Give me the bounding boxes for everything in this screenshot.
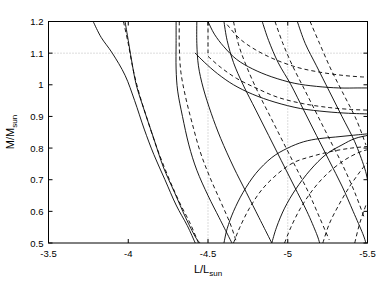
y-tick-label: 0.9 [30,111,43,122]
figure-background [0,0,388,287]
x-tick-label: -4.5 [200,248,216,259]
x-axis-title-sub: sun [209,269,222,278]
figure-container: -3.5-4-4.5-5-5.5 0.50.60.70.80.911.11.2 … [0,0,388,287]
y-axis-title-main: M/M [4,128,16,149]
x-tick-label: -3.5 [40,248,56,259]
y-tick-label: 0.8 [30,143,43,154]
y-tick-label: 0.7 [30,174,43,185]
contour-plot: -3.5-4-4.5-5-5.5 0.50.60.70.80.911.11.2 … [0,0,388,287]
y-tick-label: 1.2 [30,16,43,27]
x-axis-title-main: L/L [194,263,209,275]
x-tick-label: -5.5 [359,248,375,259]
y-tick-label: 1 [38,79,43,90]
y-tick-label: 1.1 [30,48,43,59]
y-tick-label: 0.5 [30,238,43,249]
y-tick-label: 0.6 [30,206,43,217]
y-axis-title-sub: sun [10,115,19,128]
x-tick-label: -5 [284,248,292,259]
x-tick-label: -4 [124,248,132,259]
